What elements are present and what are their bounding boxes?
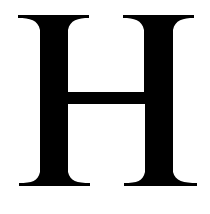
serif-h-icon: [0, 0, 210, 214]
letter-h-glyph: H: [0, 0, 210, 214]
